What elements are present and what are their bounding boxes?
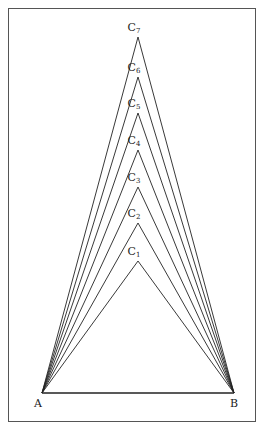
apex-label-c2: C2 — [128, 207, 141, 221]
side-line-b-c1 — [138, 261, 234, 393]
apex-label-c4: C4 — [128, 134, 141, 148]
side-line-b-c3 — [138, 187, 234, 393]
side-line-a-c2 — [42, 223, 138, 393]
side-line-b-c7 — [138, 37, 234, 393]
side-line-a-c6 — [42, 77, 138, 393]
vertex-label-a: A — [33, 397, 43, 410]
apex-label-c1: C1 — [128, 245, 141, 259]
side-line-a-c7 — [42, 37, 138, 393]
side-line-b-c6 — [138, 77, 234, 393]
side-line-a-c5 — [42, 113, 138, 393]
apex-label-c3: C3 — [128, 171, 141, 185]
side-line-b-c2 — [138, 223, 234, 393]
side-line-a-c3 — [42, 187, 138, 393]
side-line-b-c5 — [138, 113, 234, 393]
side-line-a-c1 — [42, 261, 138, 393]
triangle-diagram: C1C2C3C4C5C6C7AB — [0, 0, 265, 432]
vertex-label-b: B — [230, 397, 238, 410]
apex-label-c7: C7 — [128, 21, 141, 35]
side-line-a-c4 — [42, 150, 138, 393]
side-line-b-c4 — [138, 150, 234, 393]
